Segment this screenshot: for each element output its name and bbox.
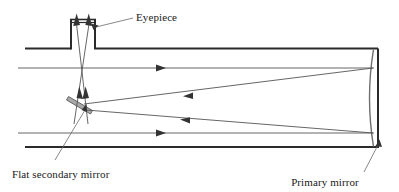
arrowhead-eyepiece-exit-left-mid — [77, 87, 83, 100]
leader-line-flat-secondary-mirror — [55, 110, 85, 160]
label-leader-lines — [55, 18, 382, 172]
primary-mirror-surface — [370, 50, 374, 147]
reflected-converging-ray-upper — [84, 68, 373, 104]
reflected-converging-ray-lower — [86, 110, 373, 133]
telescope-diagram: Eyepiece Flat secondary mirror Primary m… — [0, 0, 399, 192]
arrowhead-eyepiece-exit-right-mid — [82, 87, 89, 100]
telescope-diagram-canvas: Eyepiece Flat secondary mirror Primary m… — [0, 0, 399, 192]
primary-mirror-curve — [370, 50, 374, 147]
label-flat-secondary-mirror: Flat secondary mirror — [12, 168, 110, 180]
arrowhead-incoming-upper — [156, 65, 166, 72]
label-primary-mirror: Primary mirror — [291, 176, 359, 188]
label-eyepiece: Eyepiece — [136, 11, 177, 23]
reflected-converging-rays — [84, 68, 373, 133]
leader-line-eyepiece — [96, 18, 133, 27]
flat-secondary-mirror-bar — [67, 97, 93, 115]
arrowhead-incoming-lower — [156, 130, 166, 137]
secondary-mirror-body — [67, 97, 93, 115]
arrowhead-reflected-upper — [183, 93, 193, 100]
